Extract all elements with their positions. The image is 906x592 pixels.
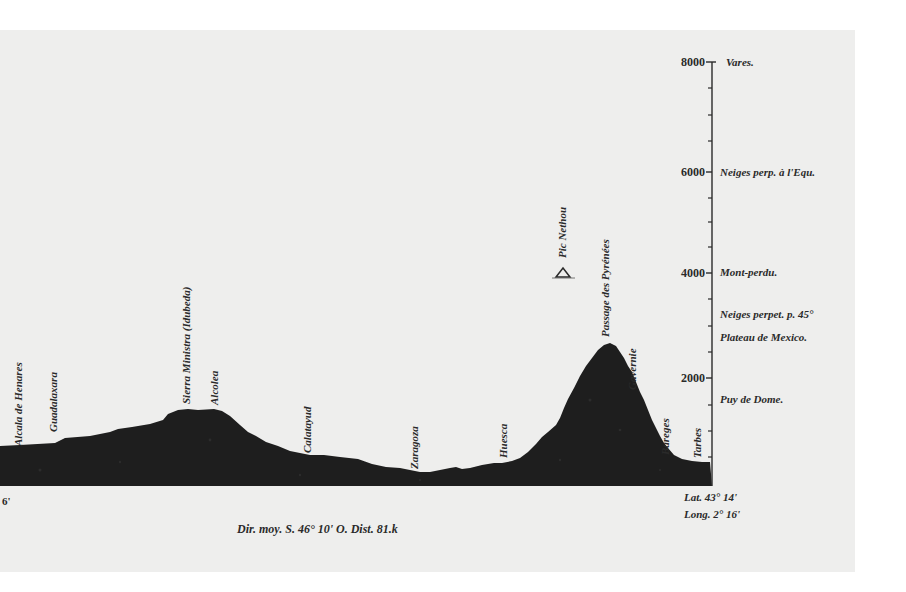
place-sierra-ministra: Sierra Ministra (Idubeda) [180, 287, 193, 404]
elevation-profile-diagram: 8000 6000 4000 2000 Vares. Neiges perp. … [0, 0, 906, 592]
axis-tick-2000: 2000 [681, 371, 712, 385]
place-pic-nethou: Pic Nethou [556, 207, 568, 258]
figure-caption: Dir. moy. S. 46° 10' O. Dist. 81.k [236, 522, 398, 536]
place-guadalaxara: Guadalaxara [47, 372, 59, 432]
ref-height-neiges-45: Neiges perpet. p. 45° [719, 308, 814, 320]
place-alcala-de-henares: Alcala de Henares [12, 362, 24, 447]
summit-triangle-icon [556, 268, 570, 277]
axis-label-6000: 6000 [681, 165, 705, 179]
place-huesca: Huesca [497, 423, 509, 459]
ref-height-plateau-mexico: Plateau de Mexico. [720, 331, 807, 343]
place-passage-des-pyrenees: Passage des Pyrénées [599, 239, 611, 337]
axis-tick-8000: 8000 [681, 55, 716, 69]
place-zaragoza: Zaragoza [408, 426, 420, 470]
place-calatayud: Calatayud [301, 406, 313, 453]
ref-height-puy-de-dome: Puy de Dome. [720, 393, 783, 405]
terrain-profile [0, 343, 712, 486]
place-alcolea: Alcolea [208, 370, 220, 406]
axis-tick-4000: 4000 [681, 266, 712, 280]
left-edge-mark: 6' [2, 495, 11, 507]
place-bareges: Bareges [659, 418, 671, 456]
axis-label-2000: 2000 [681, 371, 705, 385]
axis-tick-6000: 6000 [681, 165, 712, 179]
ref-height-neiges-equateur: Neiges perp. à l'Equ. [719, 166, 815, 178]
longitude-label: Long. 2° 16' [683, 508, 740, 520]
ref-height-mont-perdu: Mont-perdu. [719, 266, 777, 278]
ref-height-vares: Vares. [726, 56, 754, 68]
axis-label-8000: 8000 [681, 55, 705, 69]
place-tarbes: Tarbes [691, 428, 703, 458]
axis-label-4000: 4000 [681, 266, 705, 280]
latitude-label: Lat. 43° 14' [683, 491, 737, 503]
place-gavernie: Gavernie [626, 348, 638, 390]
